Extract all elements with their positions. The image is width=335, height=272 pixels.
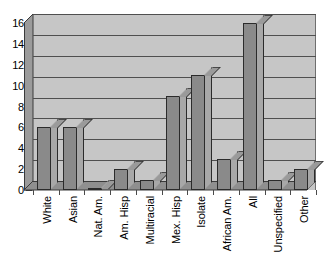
bar-side-face — [256, 15, 264, 190]
x-axis-tick-mark — [239, 190, 240, 195]
y-axis-line — [24, 23, 25, 190]
bar — [114, 169, 128, 190]
bar — [268, 180, 282, 190]
x-axis-tick-label: Multiracial — [145, 196, 156, 244]
x-axis-tick-mark — [110, 190, 111, 195]
x-axis-tick-mark — [187, 190, 188, 195]
bar-top-face — [204, 68, 221, 77]
x-axis-tick-mark — [265, 190, 266, 195]
x-axis-tick-mark — [290, 190, 291, 195]
x-axis-tick-label: Other — [299, 196, 310, 223]
x-axis-labels: WhiteAsianNat. Am.Am. HispMultiracialMex… — [33, 196, 333, 272]
x-axis-tick-label: Isolate — [196, 196, 207, 228]
y-axis-tick-label: 12 — [12, 59, 24, 70]
x-axis-tick-mark — [33, 190, 34, 195]
bar — [217, 159, 231, 190]
y-axis-tick-label: 10 — [12, 80, 24, 91]
x-axis-tick-label: Nat. Am. — [93, 196, 104, 237]
bar-side-face — [179, 88, 187, 190]
x-axis-tick-mark — [162, 190, 163, 195]
bar — [37, 127, 51, 190]
bar-top-face — [76, 120, 93, 129]
bar — [140, 180, 154, 190]
x-axis-tick-label: Am. Hisp — [119, 196, 130, 240]
bar — [63, 127, 77, 190]
x-axis-tick-mark — [59, 190, 60, 195]
y-axis-tick-label: 14 — [12, 38, 24, 49]
plot-side-wall — [24, 14, 33, 190]
x-axis-tick-label: Asian — [68, 196, 79, 223]
bar-top-face — [307, 161, 324, 170]
bars-layer — [33, 14, 316, 190]
bar-side-face — [50, 119, 58, 190]
x-axis-tick-label: White — [42, 196, 53, 224]
bar — [294, 169, 308, 190]
x-axis-tick-label: African Am. — [222, 196, 233, 251]
bar-top-face — [127, 161, 144, 170]
bar-side-face — [76, 119, 84, 190]
x-axis-tick-label: Unspecified — [273, 196, 284, 252]
bar — [191, 75, 205, 190]
plot-area — [33, 14, 316, 190]
bar-chart: 16 14 12 10 8 6 4 2 0 — [0, 0, 335, 272]
x-axis-tick-mark — [213, 190, 214, 195]
x-axis-tick-mark — [316, 190, 317, 195]
x-axis-tick-mark — [136, 190, 137, 195]
x-axis-tick-label: Mex. Hisp — [171, 196, 182, 244]
bar-side-face — [204, 67, 212, 190]
x-axis-tick-mark — [84, 190, 85, 195]
bar — [166, 96, 180, 190]
bar — [243, 23, 257, 190]
x-axis-tick-label: All — [248, 196, 259, 208]
y-axis-tick-label: 16 — [12, 18, 24, 29]
